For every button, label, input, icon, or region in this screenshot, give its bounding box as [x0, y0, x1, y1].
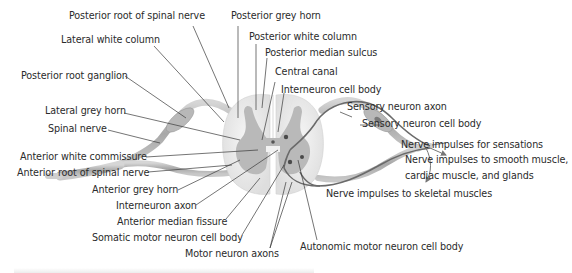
label-anterior-median-fissure: Anterior median fissure [117, 216, 227, 227]
label-sensory-neuron-cell-body: Sensory neuron cell body [362, 118, 481, 129]
label-anterior-white-commissure: Anterior white commissure [20, 151, 147, 162]
label-somatic-motor-neuron-cell-body: Somatic motor neuron cell body [92, 232, 243, 243]
interneuron-cell-body-marker [284, 135, 288, 139]
truncated-caption [14, 268, 314, 273]
label-anterior-root-spinal-nerve: Anterior root of spinal nerve [17, 167, 149, 178]
label-nerve-impulses-skeletal: Nerve impulses to skeletal muscles [326, 188, 492, 199]
label-autonomic-motor-neuron-cell-body: Autonomic motor neuron cell body [300, 241, 463, 252]
label-interneuron-axon: Interneuron axon [116, 200, 197, 211]
label-central-canal: Central canal [275, 66, 337, 77]
label-nerve-impulses-smooth-line1: Nerve impulses to smooth muscle, [405, 154, 568, 165]
label-lateral-grey-horn: Lateral grey horn [45, 105, 126, 116]
spinal-cord-diagram: Posterior root of spinal nerve Posterior… [0, 0, 572, 273]
label-sensory-neuron-axon: Sensory neuron axon [347, 101, 447, 112]
autonomic-motor-cell-body-marker [300, 155, 304, 159]
label-posterior-white-column: Posterior white column [249, 31, 357, 42]
label-motor-neuron-axons: Motor neuron axons [185, 248, 279, 259]
label-anterior-grey-horn: Anterior grey horn [92, 184, 178, 195]
label-nerve-impulses-sensations: Nerve impulses for sensations [401, 139, 543, 150]
somatic-motor-cell-body-marker [288, 160, 292, 164]
label-posterior-root-ganglion: Posterior root ganglion [21, 70, 128, 81]
label-interneuron-cell-body: Interneuron cell body [281, 84, 381, 95]
label-posterior-root-spinal-nerve: Posterior root of spinal nerve [69, 10, 205, 21]
label-posterior-median-sulcus: Posterior median sulcus [265, 47, 377, 58]
label-nerve-impulses-smooth-line2: cardiac muscle, and glands [405, 170, 534, 181]
label-lateral-white-column: Lateral white column [61, 34, 160, 45]
label-posterior-grey-horn: Posterior grey horn [231, 10, 321, 21]
label-spinal-nerve: Spinal nerve [48, 123, 107, 134]
